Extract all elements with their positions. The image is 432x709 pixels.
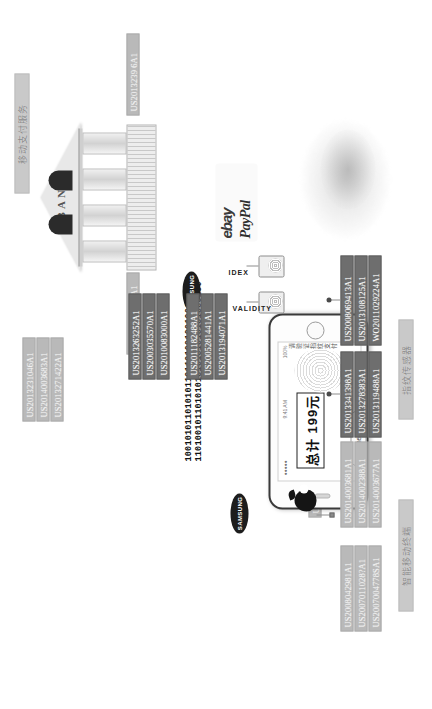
label-terminal-patent-1: US2007011028?A1	[354, 545, 367, 631]
label-group-apple-bottom-patents: US2014003681A1 US2014002388A1 US20140036…	[340, 441, 382, 527]
validity-logo-text: VALIDITY	[232, 304, 271, 311]
label-group-sensor-mid-patents: US2013263252A1 US2003035570A1 US20100830…	[128, 293, 170, 379]
phone-verify-caption: 请验证指纹支付	[288, 341, 337, 350]
bank-column	[82, 168, 126, 190]
label-sensor-right-patent-0: US2011182488A1	[186, 293, 199, 379]
label-group-idex-patents: US2008069413A1 US2013108125A1 WO20110292…	[340, 255, 382, 345]
label-group-authentec-patents: US2013341398A1 US2013278383A1 US20131194…	[340, 351, 382, 437]
connector-line	[330, 393, 340, 394]
label-group-sensor-right-patents: US2011182488A1 US2005281441A1 US20131940…	[186, 293, 228, 379]
connector-node	[326, 391, 331, 396]
bank-roofline	[78, 128, 82, 266]
bank-base-steps	[126, 124, 156, 270]
samsung-logo-text: SAMSUNG	[230, 493, 248, 533]
label-authentec-patent-0: US2013341398A1	[340, 351, 353, 437]
bank-column	[82, 240, 126, 262]
connector-line	[316, 514, 330, 515]
status-carrier: ●●●●●	[281, 460, 287, 475]
label-authentec-patent-2: US2013119488A1	[368, 351, 381, 437]
label-authentec-patent-1: US2013278383A1	[354, 351, 367, 437]
ebay-logo: ebay	[217, 208, 234, 238]
phone-home-button[interactable]	[306, 321, 324, 339]
fingerprint-graphic	[294, 348, 346, 392]
idex-sensor-chip	[258, 255, 284, 277]
connector-line	[246, 265, 258, 266]
caption-smart-mobile-terminal: 智能移动终端	[398, 499, 413, 611]
label-terminal-patent-0: US2008042981A1	[340, 545, 353, 631]
label-idex-patent-1: US2013108125A1	[354, 255, 367, 345]
connector-node	[329, 512, 334, 517]
label-terminal-patent-2: US2007004778SA1	[368, 545, 381, 631]
sensor-surface	[268, 258, 282, 272]
label-idex-patent-0: US2008069413A1	[340, 255, 353, 345]
bank-columns	[82, 132, 126, 262]
idex-logo-text: IDEX	[228, 268, 248, 275]
label-sensor-mid-patent-2: US2010083000A1	[156, 293, 169, 379]
phone-status-bar: ●●●●● 9:41 AM 100%	[280, 342, 288, 478]
caption-mobile-payment-service: 移动支付服务	[14, 73, 29, 193]
status-battery: 100%	[281, 345, 287, 358]
bank-column	[82, 204, 126, 226]
apple-bite	[299, 484, 308, 493]
label-apple-bottom-patent-1: US2014002388A1	[354, 441, 367, 527]
label-top-left-patent-2: US2013271422A1	[50, 337, 63, 421]
label-group-top-left-patents: US2013231046A1 US2014003683A1 US20132714…	[22, 337, 64, 421]
connector-node	[326, 297, 331, 302]
diagram-landscape-root: 移动支付服务 BANK US2014058941A1 US2013239 6A1…	[0, 0, 432, 709]
samsung-logo-bottom: SAMSUNG	[230, 493, 248, 533]
cloud-blob-inner	[320, 129, 375, 209]
label-top-left-patent-0: US2013231046A1	[22, 337, 35, 421]
bank-building-illustration: BANK	[40, 122, 160, 272]
label-top-left-patent-1: US2014003683A1	[36, 337, 49, 421]
payment-provider-logos: ebay PayPal	[215, 163, 257, 241]
label-sensor-mid-patent-1: US2003035570A1	[142, 293, 155, 379]
paypal-logo: PayPal	[237, 200, 253, 238]
bank-column	[82, 132, 126, 154]
label-apple-bottom-patent-0: US2014003681A1	[340, 441, 353, 527]
bank-arch	[48, 214, 72, 234]
status-time: 9:41 AM	[281, 400, 287, 418]
figure-canvas: 移动支付服务 BANK US2014058941A1 US2013239 6A1…	[0, 0, 432, 709]
bank-sign-text: BANK	[54, 122, 66, 272]
label-mobile-service-patent-0: US2013239 6A1	[126, 33, 139, 115]
payment-amount-text: 总计 199元	[301, 394, 320, 465]
label-sensor-mid-patent-0: US2013263252A1	[128, 293, 141, 379]
payment-amount-box: 总计 199元	[296, 392, 324, 468]
bank-arch	[48, 170, 72, 190]
label-sensor-right-patent-2: US2013194071A1	[214, 293, 227, 379]
caption-fingerprint-sensor: 指纹传感器	[398, 319, 413, 419]
connector-line	[246, 301, 258, 302]
label-group-terminal-patents: US2008042981A1 US2007011028?A1 US2007004…	[340, 545, 382, 631]
connector-line	[330, 299, 340, 300]
label-sensor-right-patent-1: US2005281441A1	[200, 293, 213, 379]
label-apple-bottom-patent-2: US2014003677A1	[368, 441, 381, 527]
label-idex-patent-2: WO2011029224A1	[368, 255, 381, 345]
apple-logo-bottom	[288, 487, 318, 513]
